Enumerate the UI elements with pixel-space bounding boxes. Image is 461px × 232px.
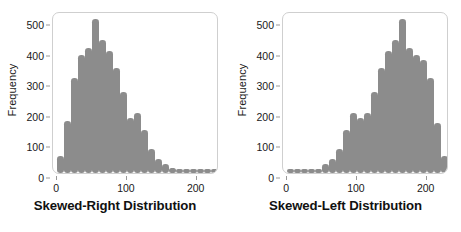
y-tick-mark [46,147,50,148]
bar [294,169,301,173]
bar [371,92,378,173]
y-tick-label: 500 [26,19,44,31]
bar [399,19,406,173]
y-tick-mark [46,55,50,56]
bar [301,169,308,173]
x-axis-ticks-left: 0100200 [52,176,218,198]
x-tick-mark [286,176,287,180]
bar [434,123,441,173]
y-axis-ticks-left: 0100200300400500 [18,14,50,169]
bar [392,40,399,173]
chart-panel-skewed-right: Frequency 0100200300400500 0100200 Skewe… [0,0,230,232]
y-tick-label: 100 [256,141,274,153]
y-tick-label: 500 [256,19,274,31]
bar [127,118,134,173]
y-tick-label: 400 [26,50,44,62]
y-tick-mark [46,116,50,117]
chart-title-left: Skewed-Right Distribution [0,198,230,213]
bar [78,55,85,173]
y-tick-mark [276,178,280,179]
bar [308,169,315,173]
x-tick-label: 200 [187,182,205,194]
bar [211,169,218,173]
y-tick-label: 0 [268,172,274,184]
bar [420,60,427,173]
plot-area-right [282,12,448,174]
bar [364,113,371,173]
bar [183,169,190,173]
y-tick-label: 200 [26,111,44,123]
y-tick-label: 100 [26,141,44,153]
plot-area-left [52,12,218,174]
bar [57,156,64,173]
bar [378,68,385,173]
x-tick-mark [56,176,57,180]
bar [406,48,413,173]
bar [176,169,183,173]
bar [357,118,364,173]
bar [113,68,120,173]
bar [106,51,113,173]
x-tick-label: 0 [283,182,289,194]
x-tick-label: 200 [417,182,435,194]
bar [287,169,294,173]
bar [322,164,329,173]
bar [343,130,350,173]
bar [155,159,162,173]
y-tick-label: 0 [38,172,44,184]
bar [134,113,141,173]
bar [329,159,336,173]
bar [197,169,204,173]
y-tick-label: 300 [26,80,44,92]
y-tick-mark [276,116,280,117]
bar [71,78,78,173]
bar [148,149,155,173]
bars-container-left [53,13,217,173]
y-tick-mark [276,55,280,56]
y-tick-mark [276,86,280,87]
bar [141,130,148,173]
figure-root: Frequency 0100200300400500 0100200 Skewe… [0,0,461,232]
bar [385,51,392,173]
bar [85,48,92,173]
y-tick-mark [46,86,50,87]
y-tick-label: 400 [256,50,274,62]
bar [99,40,106,173]
bar [427,78,434,173]
bar [120,92,127,173]
chart-panel-skewed-left: Frequency 0100200300400500 0100200 Skewe… [230,0,461,232]
bars-container-right [283,13,447,173]
x-tick-mark [196,176,197,180]
y-axis-title-right-text: Frequency [236,64,248,117]
y-axis-ticks-right: 0100200300400500 [248,14,280,169]
bar [190,169,197,173]
x-tick-label: 100 [347,182,365,194]
y-tick-mark [46,25,50,26]
y-tick-label: 300 [256,80,274,92]
bar [92,19,99,173]
x-tick-label: 100 [117,182,135,194]
x-tick-mark [426,176,427,180]
bar [64,121,71,173]
chart-title-right: Skewed-Left Distribution [230,198,461,213]
bar [350,113,357,173]
bar [169,168,176,173]
y-tick-mark [276,147,280,148]
x-tick-mark [356,176,357,180]
y-axis-title-left-text: Frequency [6,64,18,117]
bar [162,164,169,173]
y-tick-mark [276,25,280,26]
y-tick-mark [46,178,50,179]
y-tick-label: 200 [256,111,274,123]
bar [336,149,343,173]
bar [204,169,211,173]
bar [441,156,448,173]
bar [315,169,322,173]
x-axis-ticks-right: 0100200 [282,176,448,198]
bar [413,55,420,173]
x-tick-mark [126,176,127,180]
x-tick-label: 0 [53,182,59,194]
